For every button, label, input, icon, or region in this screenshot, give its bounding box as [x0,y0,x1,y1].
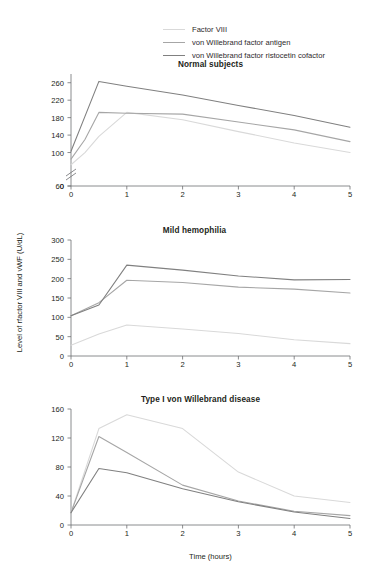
x-axis-tick-label: 2 [173,360,193,369]
chart-panel-normal-subjects: Normal subjects 060100140180220260 01234… [0,60,373,210]
y-axis-tick-label: 300 [51,236,64,245]
x-axis-tick-label: 3 [228,529,248,538]
x-axis-tick-label: 4 [284,190,304,199]
chart-title: Normal subjects [0,60,373,69]
x-axis-tick-label: 3 [228,360,248,369]
y-axis-tick-label: 100 [51,148,64,157]
x-axis-tick-label: 5 [340,529,360,538]
plot-area [71,74,350,186]
y-axis-tick-label: 80 [56,463,64,472]
chart-panel-type-i-vwd: Type I von Willebrand disease 0408012016… [0,395,373,547]
y-axis-tick-label: 50 [56,332,64,341]
x-axis-tick-label: 2 [173,190,193,199]
y-axis-tick-label: 250 [51,255,64,264]
y-axis-tick-label: 220 [51,96,64,105]
y-axis-tick-labels: 060100140180220260 [0,74,64,186]
y-axis-title: Level of rfactor VIII and vWF (U/dL) [15,218,24,368]
legend-swatch-line-icon [163,42,185,43]
x-axis-tick-label: 5 [340,360,360,369]
y-axis-tick-label: 180 [51,113,64,122]
legend-item: Factor VIII [163,24,325,35]
chart-svg [71,409,350,525]
data-series-line [71,325,350,345]
y-axis-tick-labels: 050100150200250300 [0,240,64,356]
legend-item: von Willebrand factor antigen [163,37,325,48]
x-axis-tick-label: 5 [340,190,360,199]
data-series-line [71,112,350,159]
legend-item-label: von Willebrand factor ristocetin cofacto… [192,51,325,60]
chart-panel-mild-hemophilia: Mild hemophilia 050100150200250300 01234… [0,226,373,376]
x-axis-tick-label: 3 [228,190,248,199]
x-axis-tick-label: 2 [173,529,193,538]
x-axis-tick-label: 0 [61,529,81,538]
data-series-line [71,112,350,164]
chart-title: Type I von Willebrand disease [0,395,373,404]
data-series-line [71,437,350,516]
plot-area [71,240,350,356]
x-axis-title: Time (hours) [0,552,373,561]
y-axis-tick-label: 40 [56,492,64,501]
x-axis-tick-label: 1 [117,190,137,199]
legend-swatch-line-icon [163,29,185,30]
figure-root: Factor VIIIvon Willebrand factor antigen… [0,0,373,584]
y-axis-tick-label: 140 [51,131,64,140]
chart-svg [71,240,350,356]
legend-item-label: von Willebrand factor antigen [192,38,290,47]
y-axis-tick-label: 150 [51,294,64,303]
y-axis-tick-label: 200 [51,274,64,283]
x-axis-tick-label: 1 [117,360,137,369]
x-axis-tick-label: 4 [284,529,304,538]
legend-swatch-line-icon [163,55,185,56]
y-axis-tick-label: 120 [51,434,64,443]
x-axis-tick-label: 4 [284,360,304,369]
data-series-line [71,81,350,151]
y-axis-tick-label: 160 [51,405,64,414]
y-axis-tick-label: 260 [51,78,64,87]
y-axis-tick-label: 100 [51,313,64,322]
plot-area [71,409,350,525]
legend-item-label: Factor VIII [192,25,227,34]
y-axis-tick-labels: 04080120160 [0,409,64,525]
x-axis-tick-label: 0 [61,360,81,369]
chart-title: Mild hemophilia [0,226,373,235]
chart-svg [71,74,350,186]
x-axis-tick-label: 0 [61,190,81,199]
data-series-line [71,415,350,513]
x-axis-tick-label: 1 [117,529,137,538]
chart-legend: Factor VIIIvon Willebrand factor antigen… [163,24,325,63]
